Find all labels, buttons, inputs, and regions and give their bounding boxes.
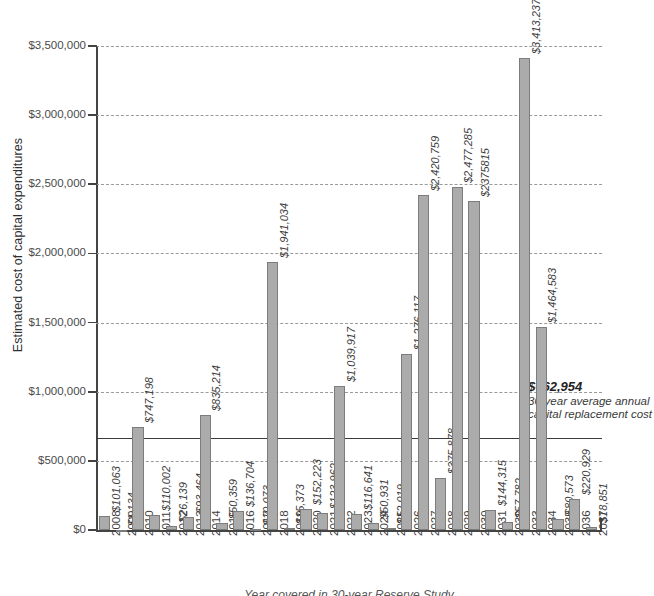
bar-2028[interactable] <box>435 478 446 530</box>
bar-2033[interactable] <box>519 58 530 530</box>
y-axis-tick-label: $500,000 <box>2 454 86 466</box>
bar-2022[interactable] <box>334 386 345 530</box>
bar-2016[interactable] <box>233 511 244 530</box>
y-axis-tick-label: $2,000,000 <box>2 246 86 258</box>
x-axis-label-2036: 2036 <box>580 510 592 536</box>
bar-2029[interactable] <box>452 187 463 530</box>
bar-value-label-2027: $2,420,759 <box>429 136 441 191</box>
bar-value-label-2034: $1,464,583 <box>546 268 558 323</box>
y-axis-tick-label: $3,000,000 <box>2 108 86 120</box>
bar-2018[interactable] <box>267 262 278 530</box>
bar-2017[interactable] <box>250 529 261 531</box>
x-axis-label-2037: 2037 <box>597 510 609 536</box>
bar-2013[interactable] <box>183 517 194 530</box>
bar-2035[interactable] <box>552 519 563 530</box>
bar-2008[interactable] <box>99 516 110 530</box>
y-axis-tick <box>88 253 97 255</box>
bar-value-label-2030: $2375815 <box>479 149 491 198</box>
bar-value-label-2010: $747,198 <box>143 377 155 423</box>
bar-2032[interactable] <box>502 522 513 530</box>
bar-2036[interactable] <box>569 499 580 530</box>
gridline <box>96 46 602 47</box>
bar-2010[interactable] <box>132 427 143 530</box>
bar-2011[interactable] <box>149 515 160 530</box>
bar-value-label-2022: $1,039,917 <box>345 327 357 382</box>
y-axis-tick <box>88 460 97 462</box>
bar-value-label-2033: $3,413,237 <box>530 0 542 54</box>
chart-caption: Year covered in 30-year Reserve Study <box>96 588 602 596</box>
y-axis-tick <box>88 183 97 185</box>
bar-value-label-2016: $136,704 <box>244 461 256 507</box>
x-axis-label-2024: 2024 <box>378 510 390 536</box>
y-axis-tick <box>88 45 97 47</box>
bar-value-label-2008: $101,063 <box>110 466 122 512</box>
y-axis-tick <box>88 391 97 393</box>
bar-value-label-2020: $152,223 <box>311 459 323 505</box>
bar-2030[interactable] <box>468 201 479 530</box>
x-axis-label-2016: 2016 <box>244 510 256 536</box>
bar-2027[interactable] <box>418 195 429 530</box>
bar-value-label-2029: $2,477,285 <box>462 128 474 183</box>
bar-value-label-2011: $110,002 <box>160 466 172 511</box>
x-axis-label-2018: 2018 <box>278 510 290 536</box>
average-reference-annotation: $662,954 30-year average annual capital … <box>528 380 654 421</box>
bar-2021[interactable] <box>317 513 328 530</box>
bar-2023[interactable] <box>351 514 362 530</box>
y-axis-tick <box>88 114 97 116</box>
x-axis-label-2008: 2008 <box>110 510 122 536</box>
bar-2020[interactable] <box>300 509 311 530</box>
y-axis-tick-label: $2,500,000 <box>2 177 86 189</box>
y-axis-tick-labels: $3,500,000$3,000,000$2,500,000$2,000,000… <box>0 0 86 596</box>
bar-2034[interactable] <box>536 327 547 530</box>
bar-value-label-2014: $835,214 <box>210 365 222 411</box>
average-description-label: 30-year average annual capital replaceme… <box>528 395 654 422</box>
bar-2015[interactable] <box>216 523 227 530</box>
bar-2037[interactable] <box>586 527 597 530</box>
bar-2012[interactable] <box>166 526 177 530</box>
y-axis-tick <box>88 529 97 531</box>
y-axis-tick-label: $0 <box>2 523 86 535</box>
bar-value-label-2023: $116,641 <box>362 465 374 510</box>
bar-value-label-2018: $1,941,034 <box>278 203 290 258</box>
y-axis-tick-label: $1,000,000 <box>2 385 86 397</box>
bar-value-label-2036: $220,929 <box>580 450 592 496</box>
bar-2025[interactable] <box>384 528 395 530</box>
y-axis-tick <box>88 322 97 324</box>
bar-value-label-2031: $144,315 <box>496 460 508 506</box>
bar-2026[interactable] <box>401 354 412 530</box>
y-axis-tick-label: $3,500,000 <box>2 39 86 51</box>
bar-2031[interactable] <box>485 510 496 530</box>
x-axis-label-2011: 2011 <box>160 511 172 536</box>
y-axis-tick-label: $1,500,000 <box>2 316 86 328</box>
